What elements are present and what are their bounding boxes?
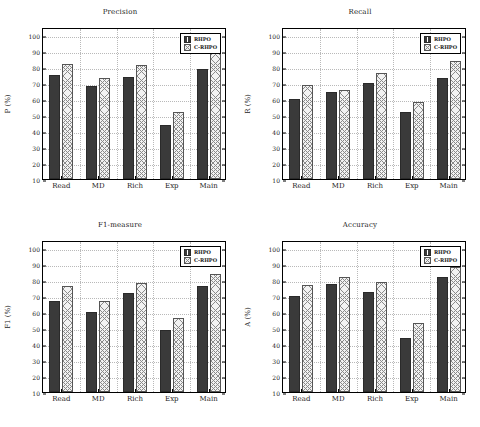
x-tick-label: Main bbox=[200, 182, 218, 190]
y-tick-mark-right bbox=[222, 266, 225, 267]
y-tick-label: 100 bbox=[29, 247, 40, 253]
x-tick-mark bbox=[98, 389, 99, 392]
x-tick-label: MD bbox=[332, 395, 345, 403]
legend-label: C-RHPO bbox=[434, 45, 457, 50]
y-tick-mark bbox=[43, 85, 46, 86]
y-tick-label: 70 bbox=[272, 295, 280, 301]
legend-swatch-icon bbox=[184, 249, 191, 256]
y-tick-label: 90 bbox=[32, 50, 40, 56]
bar-rhpo-md bbox=[326, 284, 337, 392]
y-tick-label: 80 bbox=[272, 279, 280, 285]
y-tick-label: 40 bbox=[272, 343, 280, 349]
y-tick-mark-right bbox=[222, 53, 225, 54]
chart-legend: RHPOC-RHPO bbox=[420, 246, 461, 267]
x-tick-mark bbox=[301, 389, 302, 392]
x-tick-mark bbox=[98, 176, 99, 179]
y-tick-mark bbox=[283, 314, 286, 315]
plot-area: 102030405060708090100ReadMDRichExpMainRH… bbox=[42, 28, 226, 180]
chart-panel-recall: RecallR (%)102030405060708090100ReadMDRi… bbox=[240, 0, 480, 213]
y-tick-mark bbox=[43, 117, 46, 118]
legend-label: RHPO bbox=[194, 250, 211, 255]
legend-item-c-rhpo: C-RHPO bbox=[424, 257, 457, 264]
x-tick-mark bbox=[375, 389, 376, 392]
y-tick-label: 30 bbox=[272, 146, 280, 152]
bar-rhpo-rich bbox=[363, 83, 374, 179]
x-gridline bbox=[153, 29, 154, 179]
y-tick-mark-right bbox=[222, 282, 225, 283]
x-tick-label: Rich bbox=[127, 395, 143, 403]
y-tick-mark bbox=[43, 53, 46, 54]
legend-label: C-RHPO bbox=[434, 258, 457, 263]
y-tick-mark-right bbox=[222, 101, 225, 102]
y-tick-label: 90 bbox=[272, 50, 280, 56]
legend-item-rhpo: RHPO bbox=[184, 249, 217, 256]
y-tick-mark-right bbox=[462, 362, 465, 363]
y-tick-label: 70 bbox=[272, 82, 280, 88]
y-tick-mark-right bbox=[222, 181, 225, 182]
y-tick-label: 40 bbox=[272, 130, 280, 136]
y-tick-label: 70 bbox=[32, 295, 40, 301]
y-tick-mark-right bbox=[462, 298, 465, 299]
legend-item-rhpo: RHPO bbox=[424, 36, 457, 43]
y-tick-label: 60 bbox=[32, 98, 40, 104]
y-tick-mark bbox=[43, 346, 46, 347]
y-tick-mark-right bbox=[462, 378, 465, 379]
x-tick-mark bbox=[412, 176, 413, 179]
y-tick-mark bbox=[43, 101, 46, 102]
y-tick-mark-right bbox=[222, 346, 225, 347]
y-tick-mark-right bbox=[222, 378, 225, 379]
y-tick-mark-right bbox=[222, 37, 225, 38]
y-tick-mark bbox=[283, 394, 286, 395]
chart-title: F1-measure bbox=[0, 221, 240, 229]
bar-rhpo-exp bbox=[160, 330, 171, 392]
y-tick-mark bbox=[283, 85, 286, 86]
y-tick-mark bbox=[283, 282, 286, 283]
y-tick-label: 40 bbox=[32, 130, 40, 136]
y-tick-mark bbox=[43, 394, 46, 395]
x-tick-mark bbox=[61, 389, 62, 392]
bar-c-rhpo-exp bbox=[173, 318, 184, 392]
y-tick-label: 80 bbox=[32, 279, 40, 285]
y-tick-label: 20 bbox=[272, 375, 280, 381]
chart-title: Recall bbox=[240, 8, 480, 16]
y-tick-label: 30 bbox=[32, 359, 40, 365]
bar-c-rhpo-exp bbox=[413, 102, 424, 179]
bar-rhpo-read bbox=[49, 301, 60, 392]
legend-swatch-icon bbox=[184, 36, 191, 43]
bar-rhpo-md bbox=[86, 86, 97, 179]
x-tick-label: Rich bbox=[367, 395, 383, 403]
y-axis-label-text: R (%) bbox=[244, 94, 252, 114]
x-gridline bbox=[117, 29, 118, 179]
y-tick-label: 50 bbox=[272, 327, 280, 333]
x-tick-label: Read bbox=[292, 182, 310, 190]
y-tick-mark-right bbox=[222, 117, 225, 118]
x-gridline bbox=[357, 242, 358, 392]
legend-label: RHPO bbox=[434, 37, 451, 42]
chart-legend: RHPOC-RHPO bbox=[180, 246, 221, 267]
y-tick-label: 80 bbox=[32, 66, 40, 72]
legend-label: C-RHPO bbox=[194, 45, 217, 50]
y-gridline bbox=[283, 69, 465, 70]
y-gridline bbox=[43, 282, 225, 283]
x-tick-label: Read bbox=[52, 182, 70, 190]
plot-area: 102030405060708090100ReadMDRichExpMainRH… bbox=[282, 241, 466, 393]
y-tick-mark-right bbox=[222, 314, 225, 315]
legend-item-c-rhpo: C-RHPO bbox=[184, 44, 217, 51]
bar-rhpo-rich bbox=[123, 77, 134, 179]
y-tick-mark-right bbox=[462, 133, 465, 134]
x-tick-label: Main bbox=[440, 395, 458, 403]
y-tick-mark-right bbox=[222, 165, 225, 166]
bar-c-rhpo-md bbox=[339, 90, 350, 179]
y-tick-mark-right bbox=[222, 149, 225, 150]
bar-rhpo-read bbox=[289, 99, 300, 179]
y-tick-label: 100 bbox=[269, 247, 280, 253]
x-tick-mark bbox=[172, 389, 173, 392]
y-tick-label: 70 bbox=[32, 82, 40, 88]
x-tick-label: Read bbox=[292, 395, 310, 403]
y-tick-mark-right bbox=[222, 362, 225, 363]
y-tick-mark bbox=[283, 117, 286, 118]
legend-swatch-icon bbox=[184, 257, 191, 264]
x-tick-mark bbox=[172, 176, 173, 179]
y-tick-mark-right bbox=[462, 53, 465, 54]
x-tick-label: Rich bbox=[127, 182, 143, 190]
